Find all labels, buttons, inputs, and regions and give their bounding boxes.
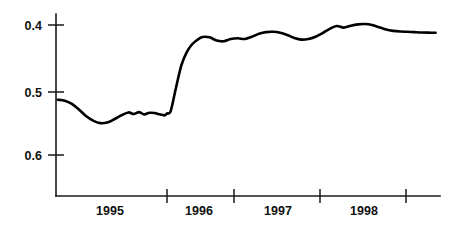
x-tick-label-1995: 1995	[96, 204, 124, 218]
chart-figure: 0.4 0.5 0.6 1995 1996 1997 1998	[0, 0, 460, 230]
y-tick-label-0.4: 0.4	[25, 19, 42, 33]
x-tick-label-1997: 1997	[264, 204, 292, 218]
y-axis-group: 0.4 0.5 0.6	[25, 14, 64, 196]
y-tick-label-0.6: 0.6	[25, 149, 42, 163]
x-axis-group: 1995 1996 1997 1998	[56, 189, 440, 218]
x-tick-label-1998: 1998	[350, 204, 378, 218]
line-chart-canvas: 0.4 0.5 0.6 1995 1996 1997 1998	[0, 0, 460, 230]
x-tick-label-1996: 1996	[185, 204, 213, 218]
y-tick-label-0.5: 0.5	[25, 86, 42, 100]
data-series-line	[58, 24, 436, 123]
